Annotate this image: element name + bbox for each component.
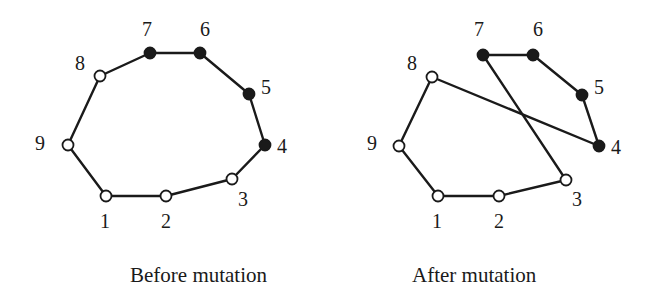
node-4 — [594, 141, 605, 152]
before-mutation-graph: 123456789 Before mutation — [35, 18, 287, 287]
edge-8-9 — [399, 77, 432, 146]
node-label-9: 9 — [367, 132, 377, 154]
nodes: 123456789 — [35, 18, 287, 232]
node-3 — [227, 174, 238, 185]
node-7 — [478, 50, 489, 61]
node-8 — [95, 71, 106, 82]
node-5 — [577, 90, 588, 101]
node-label-5: 5 — [594, 76, 604, 98]
edge-5-4 — [582, 95, 599, 146]
node-label-2: 2 — [161, 210, 171, 232]
node-6 — [195, 48, 206, 59]
edge-5-6 — [200, 53, 249, 94]
edge-2-3 — [166, 179, 232, 196]
edge-7-8 — [100, 53, 150, 76]
edge-9-1 — [399, 146, 438, 196]
node-label-5: 5 — [261, 76, 271, 98]
mutation-diagram: 123456789 Before mutation 123456789 Afte… — [0, 0, 651, 301]
node-label-4: 4 — [611, 136, 621, 158]
node-label-6: 6 — [200, 18, 210, 40]
edge-2-3 — [499, 180, 566, 196]
node-1 — [101, 191, 112, 202]
node-label-2: 2 — [494, 210, 504, 232]
node-label-1: 1 — [100, 210, 110, 232]
node-6 — [528, 50, 539, 61]
node-9 — [63, 140, 74, 151]
node-2 — [161, 191, 172, 202]
node-5 — [244, 89, 255, 100]
edge-6-5 — [533, 55, 582, 95]
node-8 — [427, 72, 438, 83]
node-label-7: 7 — [474, 18, 484, 40]
node-label-8: 8 — [75, 52, 85, 74]
node-label-9: 9 — [35, 132, 45, 154]
caption-before: Before mutation — [130, 263, 268, 287]
edge-3-4 — [232, 145, 265, 179]
node-label-3: 3 — [238, 188, 248, 210]
edge-9-1 — [68, 145, 106, 196]
node-3 — [561, 175, 572, 186]
node-label-7: 7 — [142, 18, 152, 40]
nodes: 123456789 — [367, 18, 621, 232]
node-7 — [145, 48, 156, 59]
node-2 — [494, 191, 505, 202]
node-label-3: 3 — [572, 188, 582, 210]
node-label-8: 8 — [407, 52, 417, 74]
node-1 — [433, 191, 444, 202]
node-label-1: 1 — [432, 210, 442, 232]
edge-4-5 — [249, 94, 265, 145]
edge-8-9 — [68, 76, 100, 145]
node-4 — [260, 140, 271, 151]
edge-3-7 — [483, 55, 566, 180]
caption-after: After mutation — [412, 263, 537, 287]
after-mutation-graph: 123456789 After mutation — [367, 18, 621, 287]
node-label-6: 6 — [533, 18, 543, 40]
node-label-4: 4 — [277, 135, 287, 157]
node-9 — [394, 141, 405, 152]
